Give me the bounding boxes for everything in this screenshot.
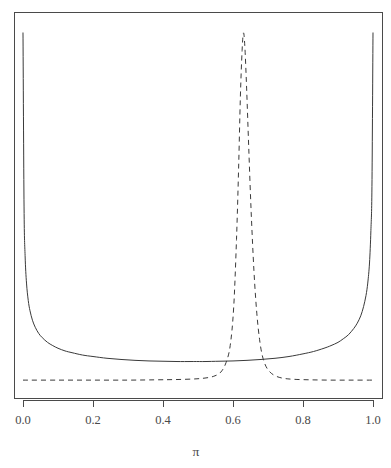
x-tick-label-0: 0.0	[15, 413, 31, 427]
x-axis-title: π	[193, 444, 200, 459]
x-tick-label-4: 0.8	[295, 413, 311, 427]
x-tick-label-2: 0.4	[155, 413, 171, 427]
density-plot-svg: 0.00.20.40.60.81.0 π	[0, 0, 391, 468]
x-tick-label-3: 0.6	[225, 413, 241, 427]
x-axis-ticks	[24, 400, 374, 407]
series-prior-solid-line	[23, 33, 373, 362]
x-axis	[23, 400, 374, 407]
x-tick-label-1: 0.2	[85, 413, 101, 427]
plot-frame	[15, 13, 383, 399]
plot-curves	[23, 33, 373, 380]
series-posterior-dashed-line	[23, 33, 373, 380]
chart-figure: 0.00.20.40.60.81.0 π	[0, 0, 391, 468]
x-axis-tick-labels: 0.00.20.40.60.81.0	[15, 413, 381, 427]
x-tick-label-5: 1.0	[365, 413, 381, 427]
